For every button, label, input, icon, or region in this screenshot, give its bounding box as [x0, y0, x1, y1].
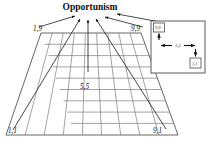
corner-label-bottom-right: 9,1 — [153, 127, 162, 135]
inset-panel: 9,9 1,1 5,5 — [151, 21, 205, 73]
corner-label-top-right: 9,9 — [131, 25, 140, 33]
corner-label-top-left: 1,9 — [33, 25, 42, 33]
grid-columns — [25, 33, 159, 135]
corner-label-bottom-left: 1,1 — [8, 127, 17, 135]
arrow-from-1-9 — [39, 16, 75, 27]
figure-title: Opportunism — [63, 2, 118, 12]
center-label: 5,5 — [80, 83, 89, 91]
figure-root: Opportunism 1,9 9,9 1,1 9,1 5,5 9,9 1,1 … — [0, 0, 208, 150]
managerial-grid-figure: Opportunism 1,9 9,9 1,1 9,1 5,5 9,9 1,1 … — [0, 0, 208, 150]
